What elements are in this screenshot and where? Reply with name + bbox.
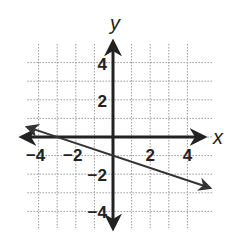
x-tick-label: −4 bbox=[26, 146, 46, 165]
y-tick-label: −2 bbox=[88, 166, 107, 185]
x-tick-label: 4 bbox=[183, 146, 193, 165]
y-tick-label: 4 bbox=[98, 55, 108, 74]
x-tick-label: 2 bbox=[145, 146, 154, 165]
x-tick-label: −2 bbox=[63, 146, 82, 165]
y-tick-label: 2 bbox=[98, 92, 107, 111]
y-tick-label: −4 bbox=[88, 203, 108, 222]
y-axis-label: y bbox=[108, 12, 121, 34]
x-axis-label: x bbox=[212, 126, 224, 148]
coordinate-plane: −4−22442−2−4 x y bbox=[0, 0, 232, 243]
